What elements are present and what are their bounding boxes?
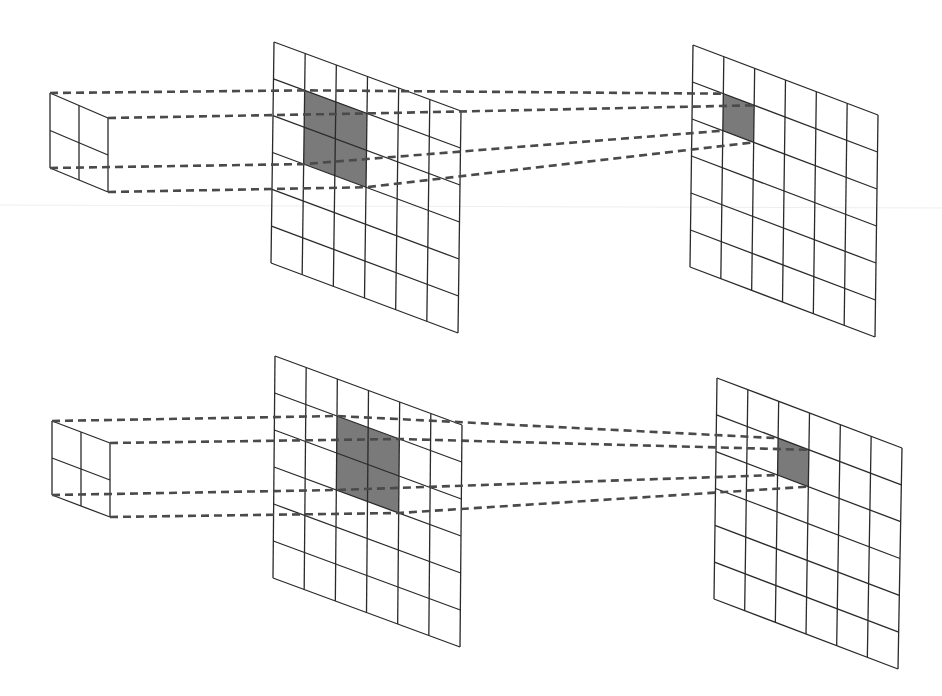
- output-grid: [714, 378, 902, 669]
- kernel-grid: [52, 421, 110, 517]
- projection-line-bl: [52, 475, 778, 495]
- output-grid-shaded-region: [723, 94, 754, 143]
- panel-bottom: [52, 356, 902, 669]
- panel-top: [50, 42, 878, 337]
- convolution-diagram: [0, 0, 942, 696]
- projection-line-tl: [52, 416, 778, 438]
- projection-line-br: [108, 142, 754, 192]
- projection-line-tl: [50, 90, 723, 93]
- input-grid: [271, 42, 461, 333]
- projection-line-bl: [50, 131, 723, 168]
- input-grid: [273, 356, 462, 647]
- projection-lines: [50, 90, 754, 192]
- projection-line-tr: [110, 439, 809, 450]
- projection-line-tr: [108, 105, 754, 118]
- output-grid: [690, 45, 878, 337]
- kernel-grid: [50, 93, 108, 192]
- scan-artifact-line: [0, 205, 942, 208]
- output-grid-shaded-region: [778, 438, 809, 487]
